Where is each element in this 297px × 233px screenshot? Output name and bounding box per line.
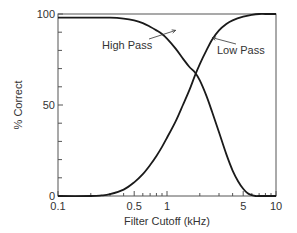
y-tick-label: 100 (37, 8, 55, 20)
y-axis-title: % Correct (12, 81, 24, 130)
line-chart: 050100 0.10.51510 High PassLow Pass Filt… (0, 0, 297, 233)
annotation-arrow (149, 30, 176, 39)
x-tick-label: 5 (240, 200, 246, 212)
x-axis: 0.10.51510 (50, 191, 282, 212)
plot-area (58, 14, 276, 196)
series-layer (58, 14, 276, 196)
plot-frame (58, 14, 276, 196)
x-tick-label: 0.1 (50, 200, 65, 212)
x-axis-title: Filter Cutoff (kHz) (124, 215, 210, 227)
annotation-layer: High PassLow Pass (102, 30, 265, 56)
x-tick-label: 0.5 (127, 200, 142, 212)
x-tick-label: 10 (270, 200, 282, 212)
y-tick-label: 50 (43, 99, 55, 111)
series-line-low-pass (58, 14, 276, 196)
y-axis: 050100 (37, 8, 63, 202)
x-tick-label: 1 (164, 200, 170, 212)
annotation-label: High Pass (102, 39, 153, 51)
annotation-label: Low Pass (217, 44, 265, 56)
